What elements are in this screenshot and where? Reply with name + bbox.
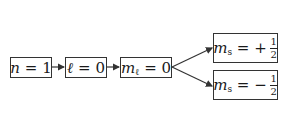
node-ms-minus-var: m [213,76,227,94]
node-ms-minus-sign: − [254,76,267,94]
fraction-one-half: 1 2 [270,74,278,97]
node-ms-plus-var: m [213,39,227,57]
fraction-numerator: 1 [271,37,277,47]
node-ms-minus-sub: s [227,84,232,94]
node-ms-plus-op: = [232,39,254,57]
node-l-op: = [73,59,95,77]
node-l-value: 0 [95,59,105,77]
node-n-value: 1 [42,59,52,77]
node-ms-plus: ms = + 1 2 [213,33,278,63]
node-n: n = 1 [10,57,52,78]
node-ml: mℓ = 0 [120,57,172,78]
node-ms-plus-sub: s [227,47,232,57]
node-ms-plus-sign: + [254,39,267,57]
node-n-var: n [10,59,20,77]
node-ml-op: = [139,59,161,77]
node-ml-value: 0 [162,59,172,77]
node-ml-var: m [121,59,135,77]
arrow-ml-to-ms-plus [172,48,212,67]
fraction-denominator: 2 [271,50,277,60]
fraction-numerator: 1 [271,74,277,84]
node-n-op: = [20,59,42,77]
fraction-denominator: 2 [271,87,277,97]
node-ml-sub: ℓ [135,67,139,77]
arrow-ml-to-ms-minus [172,67,212,86]
fraction-one-half: 1 2 [270,37,278,60]
node-ms-minus-op: = [232,76,254,94]
node-ms-minus: ms = − 1 2 [213,70,278,100]
node-l: ℓ = 0 [65,57,107,78]
